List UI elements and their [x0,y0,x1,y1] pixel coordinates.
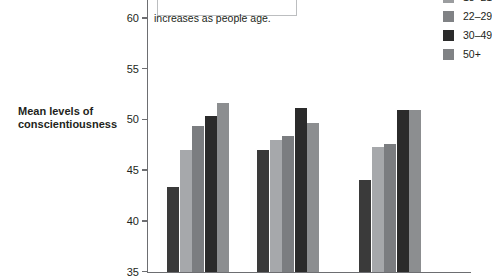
y-tick [142,220,147,221]
bar-group [257,1,320,272]
legend-swatch-icon [443,0,454,3]
bar [372,147,384,272]
bar [307,123,319,272]
y-tick-label: 40 [127,215,139,227]
y-tick [142,68,147,69]
y-tick-label: 55 [127,63,139,75]
legend-swatch-icon [443,49,454,60]
bar [270,140,282,272]
bar [359,180,371,271]
y-axis-title-line-2: conscientiousness [18,118,130,131]
y-tick-label: 45 [127,164,139,176]
y-tick [142,169,147,170]
bar-group [359,1,422,272]
y-axis-title-line-1: Mean levels of [18,105,130,118]
bar [205,116,217,271]
legend-label: 30–49 [463,29,492,42]
bar [180,150,192,272]
bar [282,136,294,272]
bar-group [167,1,230,272]
bar [192,126,204,272]
legend-swatch-icon [443,11,454,22]
legend-label: 50+ [463,48,481,61]
bar [295,108,307,271]
y-tick [142,271,147,272]
y-tick [142,119,147,120]
y-tick-label: 60 [127,12,139,24]
y-axis-line [147,0,148,273]
y-tick [142,17,147,18]
y-tick-label: 35 [127,266,139,278]
bar [384,144,396,272]
plot-area: 354045505560 increases as people age. 18… [147,0,471,273]
bar [397,110,409,271]
legend-label: 22–29 [463,10,492,23]
bar [167,187,179,271]
bar [257,150,269,272]
y-axis-title: Mean levels of conscientiousness [18,105,130,131]
y-tick-label: 50 [127,113,139,125]
annotation-text: increases as people age. [154,12,271,24]
bar [409,110,421,271]
legend-label: 18–21 [463,0,492,4]
x-axis-line [147,272,471,273]
legend-swatch-icon [443,30,454,41]
bar [217,103,229,271]
